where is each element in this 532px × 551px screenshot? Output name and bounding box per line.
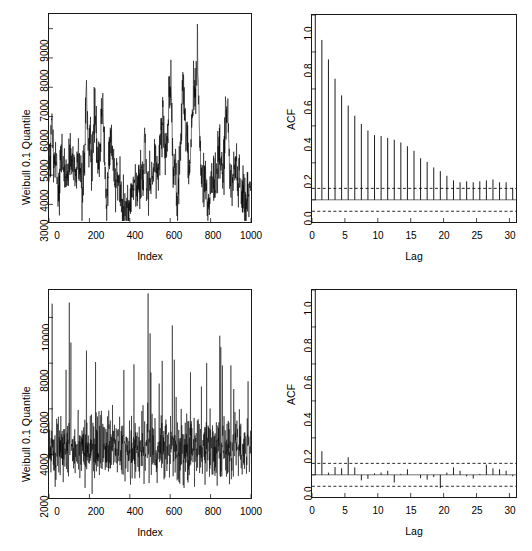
panel-bottom-left: Weibull 0.1 Quantile 2000 4000 6000 8000…: [0, 275, 266, 551]
plot-area-topright: [311, 14, 517, 223]
x-tick-label: 200: [83, 230, 109, 241]
x-tick-label: 10: [367, 230, 389, 241]
x-tick-label: 600: [161, 506, 187, 517]
axis-label-x-topleft: Index: [105, 250, 195, 262]
x-tick-label: 0: [44, 506, 70, 517]
panel-top-right: ACF 0.0 0.2 0.4 0.6 0.8 1.0 0 5 10 15 20…: [266, 0, 532, 275]
x-tick-label: 0: [301, 505, 323, 516]
x-tick-label: 800: [200, 230, 226, 241]
axis-label-x-topright: Lag: [374, 250, 454, 262]
x-tick-label: 400: [122, 230, 148, 241]
x-tick-label: 0: [301, 230, 323, 241]
axis-label-x-bottomleft: Index: [105, 526, 195, 538]
axis-label-x-bottomright: Lag: [374, 525, 454, 537]
x-tick-label: 15: [400, 230, 422, 241]
x-tick-label: 5: [334, 230, 356, 241]
x-tick-label: 0: [44, 230, 70, 241]
axis-label-y-bottomright: ACF: [285, 384, 297, 405]
axis-label-y-bottomleft: Weibull 0.1 Quantile: [20, 386, 32, 482]
x-tick-label: 25: [466, 505, 488, 516]
x-tick-label: 200: [83, 506, 109, 517]
x-tick-label: 5: [334, 505, 356, 516]
panel-bottom-right: ACF 0.0 0.2 0.4 0.6 0.8 1.0 0 5 10 15 20…: [266, 275, 532, 551]
figure-canvas: Weibull 0.1 Quantile 3000 4000 5000 6000…: [0, 0, 532, 551]
x-tick-label: 30: [499, 230, 521, 241]
x-tick-label: 20: [433, 230, 455, 241]
plot-area-bottomleft: [48, 289, 252, 499]
x-tick-label: 30: [499, 505, 521, 516]
plot-area-topleft: [48, 13, 252, 223]
x-tick-label: 1000: [236, 230, 266, 241]
axis-label-y-topright: ACF: [285, 109, 297, 130]
x-tick-label: 10: [367, 505, 389, 516]
axis-label-y-topleft: Weibull 0.1 Quantile: [20, 109, 32, 205]
x-tick-label: 1000: [236, 506, 266, 517]
x-tick-label: 800: [200, 506, 226, 517]
x-tick-label: 600: [161, 230, 187, 241]
panel-top-left: Weibull 0.1 Quantile 3000 4000 5000 6000…: [0, 0, 266, 275]
x-tick-label: 400: [122, 506, 148, 517]
x-tick-label: 20: [433, 505, 455, 516]
x-tick-label: 25: [466, 230, 488, 241]
plot-area-bottomright: [311, 289, 517, 498]
x-tick-label: 15: [400, 505, 422, 516]
